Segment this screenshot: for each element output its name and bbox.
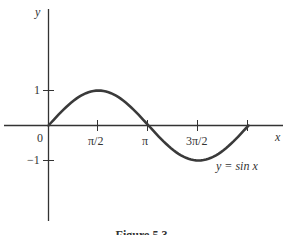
tick-label-pi-2: π/2 [88, 135, 103, 147]
figure-caption: Figure 5.3 [0, 228, 283, 235]
tick-label-pi: π [142, 135, 148, 147]
tick-label-3pi-2: 3π/2 [186, 135, 207, 147]
x-axis-label: x [275, 131, 280, 143]
origin-label: 0 [37, 132, 43, 144]
tick-label-neg1: −1 [27, 154, 40, 166]
sine-figure: y x 0 π/2 π 3π/2 1 −1 y = sin x Figure 5… [0, 0, 283, 235]
y-axis-label: y [35, 6, 40, 18]
sine-plot [0, 0, 283, 235]
curve-label: y = sin x [216, 160, 258, 172]
tick-label-1: 1 [34, 84, 40, 96]
